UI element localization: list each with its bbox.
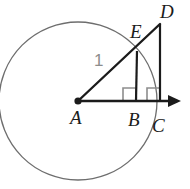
point-label-e: E — [130, 22, 142, 41]
radius-length-label: 1 — [94, 52, 103, 69]
right-angle-marker-c — [147, 88, 160, 101]
point-label-d: D — [160, 2, 174, 21]
segment-eb — [136, 51, 137, 101]
geometry-figure: A B C D E 1 — [0, 0, 190, 189]
point-a-dot — [74, 97, 81, 104]
point-label-a: A — [70, 108, 82, 127]
geometry-canvas — [0, 0, 190, 189]
right-angle-marker-b — [123, 88, 136, 101]
point-label-c: C — [152, 116, 165, 135]
point-label-b: B — [128, 110, 140, 129]
axis-arrowhead-icon — [168, 95, 181, 107]
